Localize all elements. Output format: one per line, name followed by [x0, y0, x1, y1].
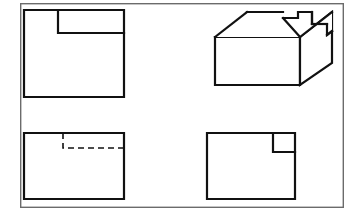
front-view-outline: [24, 133, 124, 199]
top-view-notch-edge: [58, 10, 124, 33]
side-view-notch-edge: [273, 133, 295, 152]
side-view: [207, 133, 295, 199]
top-view-outline: [24, 10, 124, 97]
isometric-view: [215, 12, 332, 85]
top-view: [24, 10, 124, 97]
technical-drawing-sheet: [0, 0, 357, 215]
front-view: [24, 133, 124, 199]
engineering-drawing-canvas: [0, 0, 357, 215]
isometric-front-face: [215, 37, 300, 85]
side-view-outline: [207, 133, 295, 199]
front-view-hidden-edge: [63, 133, 124, 148]
